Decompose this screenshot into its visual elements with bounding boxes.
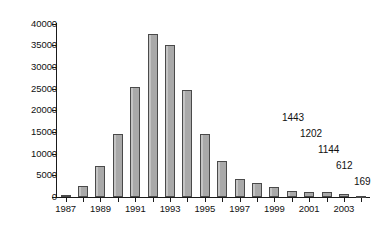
bar-highlight: [114, 135, 116, 196]
x-tick-mark-1991: [135, 198, 136, 202]
x-tick-mark-1989: [100, 198, 101, 202]
y-tick-label: 30000: [13, 62, 57, 72]
value-label-2000: 1443: [282, 112, 304, 123]
bar-highlight: [149, 35, 151, 196]
y-tick-label: 10000: [13, 149, 57, 159]
bar-1998: [252, 183, 262, 197]
bar-1988: [78, 186, 88, 197]
bar-1994: [182, 90, 192, 197]
x-tick-mark-1993: [170, 198, 171, 202]
bar-1993: [165, 45, 175, 197]
bar-1992: [148, 34, 158, 197]
bar-chart: 0500010000150002000025000300003500040000…: [0, 0, 380, 228]
x-tick-mark-1988: [83, 198, 84, 202]
bar-highlight: [201, 135, 203, 196]
y-tick-label: 5000: [13, 170, 57, 180]
bar-2000: [287, 191, 297, 197]
bar-1996: [217, 161, 227, 197]
y-tick-25000: 25000: [0, 84, 57, 94]
y-tick-label: 0: [13, 192, 57, 202]
bar-highlight: [96, 167, 98, 196]
x-tick-mark-1997: [240, 198, 241, 202]
y-tick-mark: [52, 67, 57, 68]
y-tick-35000: 35000: [0, 40, 57, 50]
y-tick-label: 20000: [13, 105, 57, 115]
y-tick-label: 25000: [13, 84, 57, 94]
bar-highlight: [79, 187, 81, 196]
bar-1995: [200, 134, 210, 197]
bar-1991: [130, 87, 140, 197]
bar-highlight: [253, 184, 255, 196]
y-tick-10000: 10000: [0, 149, 57, 159]
x-tick-mark-1994: [187, 198, 188, 202]
x-tick-mark-2002: [327, 198, 328, 202]
value-label-2003: 612: [336, 160, 352, 171]
x-tick-mark-1996: [222, 198, 223, 202]
value-label-2002: 1144: [318, 144, 339, 155]
bar-highlight: [236, 180, 238, 196]
x-tick-mark-2004: [361, 198, 362, 202]
bar-highlight: [183, 91, 185, 196]
bar-highlight: [270, 188, 272, 196]
x-tick-mark-1992: [153, 198, 154, 202]
y-tick-15000: 15000: [0, 127, 57, 137]
y-tick-mark: [52, 89, 57, 90]
y-tick-mark: [52, 110, 57, 111]
y-tick-0: 0: [0, 192, 57, 202]
x-tick-mark-2001: [309, 198, 310, 202]
y-tick-mark: [52, 24, 57, 25]
value-label-2001: 1202: [300, 128, 322, 139]
bar-1997: [235, 179, 245, 197]
bar-1999: [269, 187, 279, 197]
y-tick-20000: 20000: [0, 105, 57, 115]
x-tick-mark-1999: [274, 198, 275, 202]
x-tick-label-2003: 2003: [324, 203, 364, 214]
x-tick-mark-1995: [205, 198, 206, 202]
y-tick-label: 40000: [13, 19, 57, 29]
bar-1987: [61, 195, 71, 197]
bar-2002: [322, 192, 332, 197]
y-tick-mark: [52, 154, 57, 155]
y-tick-5000: 5000: [0, 170, 57, 180]
y-tick-30000: 30000: [0, 62, 57, 72]
x-tick-mark-2003: [344, 198, 345, 202]
y-tick-mark: [52, 175, 57, 176]
y-tick-label: 15000: [13, 127, 57, 137]
bar-2001: [304, 192, 314, 197]
x-tick-mark-1990: [118, 198, 119, 202]
y-tick-mark: [52, 197, 57, 198]
x-tick-mark-2000: [292, 198, 293, 202]
bar-2004: [356, 196, 366, 198]
bar-highlight: [166, 46, 168, 196]
value-label-2004: 169: [354, 176, 370, 187]
y-tick-mark: [52, 132, 57, 133]
bar-2003: [339, 194, 349, 197]
y-tick-mark: [52, 45, 57, 46]
x-tick-mark-1998: [257, 198, 258, 202]
bar-highlight: [131, 88, 133, 196]
bar-1990: [113, 134, 123, 197]
y-tick-40000: 40000: [0, 19, 57, 29]
bar-highlight: [288, 192, 290, 196]
y-tick-label: 35000: [13, 40, 57, 50]
bar-1989: [95, 166, 105, 197]
x-axis-line: [56, 197, 370, 198]
bar-highlight: [218, 162, 220, 196]
x-tick-mark-1987: [66, 198, 67, 202]
